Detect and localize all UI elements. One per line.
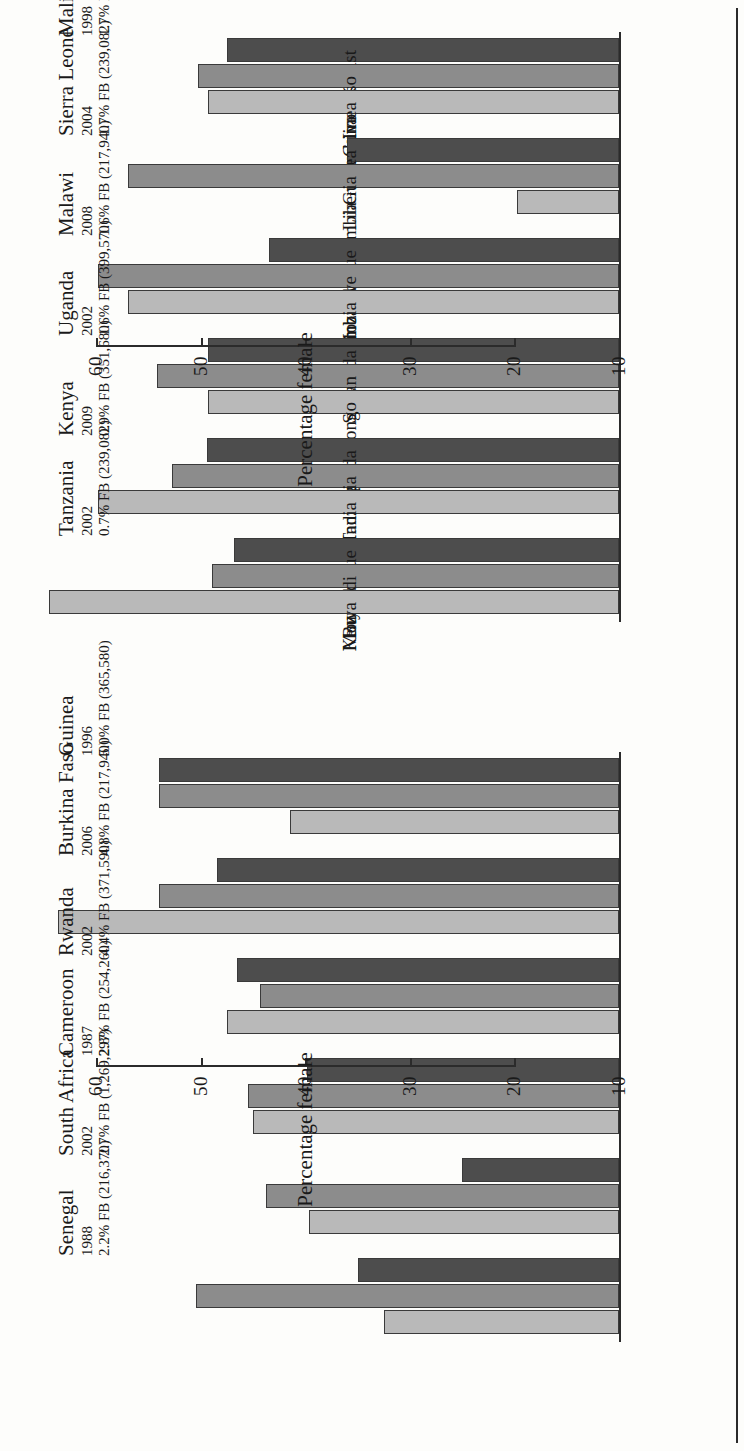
- group-header: Tanzania20020.7% FB (239,082): [55, 420, 113, 536]
- bar: [172, 464, 619, 488]
- value-axis-tick-label: 50: [190, 336, 212, 396]
- group-header: Guinea19965.0% FB (365,580): [55, 640, 113, 756]
- group-year: 1988: [79, 1140, 96, 1256]
- bar: [347, 138, 619, 162]
- group-foreign-born-stat: 4.4% FB (371,590): [96, 840, 113, 956]
- bar: [384, 1310, 619, 1334]
- group-header: Sierra Leone20041.7% FB (239,082): [55, 20, 113, 136]
- bar: [269, 238, 619, 262]
- bar: [196, 1284, 619, 1308]
- bar: [208, 90, 619, 114]
- group-foreign-born-stat: 1.6% FB (217,940): [96, 120, 113, 236]
- bar: [358, 1258, 619, 1282]
- group-foreign-born-stat: 1.7% FB (239,082): [96, 20, 113, 136]
- value-axis-title: Percentage female: [293, 1010, 318, 1250]
- bar: [128, 290, 619, 314]
- group-year: 2006: [79, 740, 96, 856]
- group-header: Burkina Faso20064.8% FB (217,940): [55, 740, 113, 856]
- group-country-name: Malawi: [55, 120, 79, 236]
- group-country-name: Rwanda: [55, 840, 79, 956]
- value-axis-tick-label: 30: [399, 336, 421, 396]
- figure-page: Ivory CoastBurkina FasoGuineaMali19981.7…: [0, 0, 744, 1451]
- bar: [159, 784, 619, 808]
- value-axis-tick-label: 10: [608, 1056, 630, 1116]
- bar: [159, 884, 619, 908]
- bar: [128, 164, 619, 188]
- bar: [237, 958, 619, 982]
- value-axis-tick-label: 50: [190, 1056, 212, 1116]
- group-header: Senegal19882.2% FB (216,370): [55, 1140, 113, 1256]
- group-country-name: Sierra Leone: [55, 20, 79, 136]
- value-axis-tick-label: 60: [85, 336, 107, 396]
- group-country-name: Uganda: [55, 220, 79, 336]
- group-header: Uganda20021.6% FB (399,570): [55, 220, 113, 336]
- category-axis-line: [619, 32, 621, 622]
- value-axis-tick-label: 20: [503, 336, 525, 396]
- value-axis-title: Percentage female: [293, 290, 318, 530]
- category-axis-line: [619, 752, 621, 1342]
- bar: [212, 564, 619, 588]
- bar: [58, 910, 619, 934]
- group-year: 2008: [79, 120, 96, 236]
- group-foreign-born-stat: 4.8% FB (217,940): [96, 740, 113, 856]
- group-country-name: Senegal: [55, 1140, 79, 1256]
- group-foreign-born-stat: 5.0% FB (365,580): [96, 640, 113, 756]
- group-year: 2002: [79, 840, 96, 956]
- bar: [309, 1210, 620, 1234]
- value-axis-tick-label: 20: [503, 1056, 525, 1116]
- bar: [307, 1058, 619, 1082]
- group-country-name: Guinea: [55, 640, 79, 756]
- group-foreign-born-stat: 0.7% FB (239,082): [96, 420, 113, 536]
- bar: [266, 1184, 619, 1208]
- value-axis-tick-label: 10: [608, 336, 630, 396]
- group-header: Malawi20081.6% FB (217,940): [55, 120, 113, 236]
- bar: [49, 590, 619, 614]
- bar: [227, 1010, 619, 1034]
- group-year: 2002: [79, 220, 96, 336]
- value-axis-tick-label: 60: [85, 1056, 107, 1116]
- bar: [207, 438, 619, 462]
- group-year: 2004: [79, 20, 96, 136]
- bar: [198, 64, 619, 88]
- bar: [157, 364, 619, 388]
- group-foreign-born-stat: 1.6% FB (399,570): [96, 220, 113, 336]
- bar: [290, 810, 619, 834]
- bar: [234, 538, 619, 562]
- group-year: 1996: [79, 640, 96, 756]
- page-edge-rule: [736, 8, 738, 1443]
- group-header: Rwanda20024.4% FB (371,590): [55, 840, 113, 956]
- bar: [260, 984, 619, 1008]
- bar: [159, 758, 619, 782]
- group-country-name: South Africa: [55, 1029, 79, 1156]
- bar: [462, 1158, 619, 1182]
- group-country-name: Kenya: [55, 320, 79, 436]
- bar: [517, 190, 619, 214]
- group-country-name: Tanzania: [55, 420, 79, 536]
- bar: [227, 38, 619, 62]
- group-year: 2002: [79, 420, 96, 536]
- value-axis-tick-label: 30: [399, 1056, 421, 1116]
- group-foreign-born-stat: 2.2% FB (216,370): [96, 1140, 113, 1256]
- bar: [217, 858, 620, 882]
- group-country-name: Burkina Faso: [55, 740, 79, 856]
